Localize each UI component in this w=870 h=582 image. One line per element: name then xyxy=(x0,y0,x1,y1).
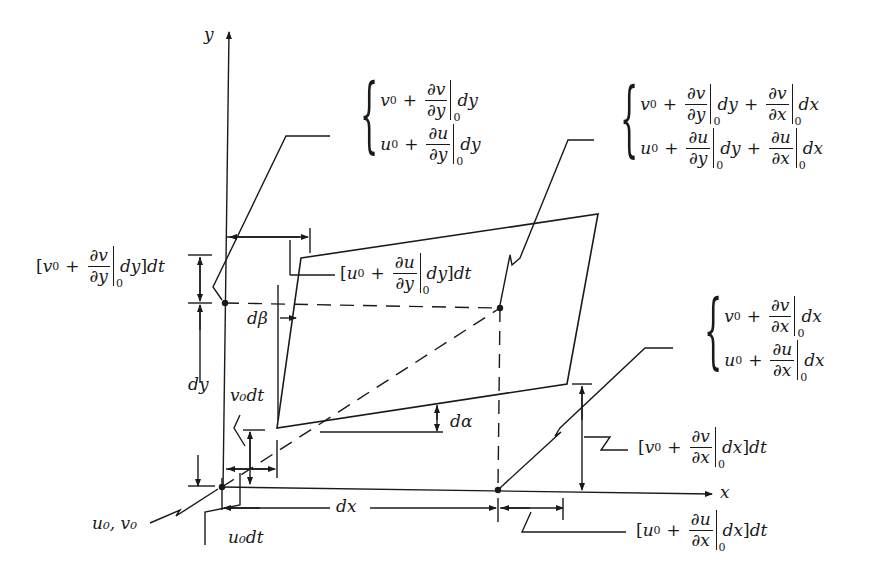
leader-bottom-right-corner xyxy=(500,348,673,488)
u0dt-label: u₀dt xyxy=(228,529,263,546)
origin-label: u₀, v₀ xyxy=(92,515,137,532)
x-axis-label: x xyxy=(720,484,730,501)
leader-top-right-corner xyxy=(500,140,594,305)
v0dt-label: v₀dt xyxy=(230,387,264,404)
leader-bottom-right-vertical xyxy=(584,437,628,450)
top-left-horizontal-displacement: [u0+ ∂u∂y 0dy]dt xyxy=(340,253,471,293)
dbeta-label: dβ xyxy=(247,310,268,327)
top-left-vertical-displacement: [v0+ ∂v∂y 0dy]dt xyxy=(36,246,165,286)
top-left-u-expr: u0+ ∂u∂y 0dy xyxy=(380,124,480,164)
y-axis-label: y xyxy=(204,26,214,43)
bottom-right-vertical-displacement: [v0+ ∂v∂x 0dx]dt xyxy=(638,427,767,467)
bottom-right-v-expr: v0+ ∂v∂x 0dx xyxy=(724,296,824,336)
dalpha-label: dα xyxy=(450,413,472,430)
top-left-v-expr: v0+ ∂v∂y 0dy xyxy=(380,80,480,120)
dx-label: dx xyxy=(336,498,356,515)
x-axis xyxy=(222,487,712,494)
leader-origin xyxy=(150,489,218,523)
top-right-corner-velocity: { v0+ ∂v∂y 0dy+ ∂v∂x 0dx u0+ ∂u∂y 0dy+ ∂… xyxy=(586,84,823,168)
deformed-element xyxy=(277,214,598,428)
bottom-right-corner-velocity: { v0+ ∂v∂x 0dx u0+ ∂u∂x 0dx xyxy=(670,296,825,380)
leader-bottom-right-horizontal xyxy=(522,512,626,532)
top-right-u-expr: u0+ ∂u∂y 0dy+ ∂u∂x 0dx xyxy=(640,128,823,168)
bottom-right-horizontal-displacement: [u0+ ∂u∂x 0dx]dt xyxy=(636,510,767,550)
dy-label: dy xyxy=(188,376,209,393)
top-right-v-expr: v0+ ∂v∂y 0dy+ ∂v∂x 0dx xyxy=(640,84,823,124)
top-left-corner-velocity: { v0+ ∂v∂y 0dy u0+ ∂u∂y 0dy xyxy=(326,80,481,164)
bottom-right-u-expr: u0+ ∂u∂x 0dx xyxy=(724,340,824,380)
